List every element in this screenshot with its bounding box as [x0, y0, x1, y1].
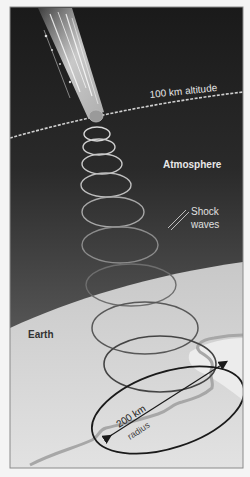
diagram-canvas: 100 km altitude Atmosphere Shock waves E…: [0, 0, 250, 477]
meteor-shockwave-diagram: 100 km altitude Atmosphere Shock waves E…: [0, 0, 250, 477]
atmosphere-label: Atmosphere: [163, 159, 222, 170]
shock-waves-label-line1: Shock: [191, 206, 220, 217]
shock-waves-label-line2: waves: [190, 219, 219, 230]
meteor-body-icon: [89, 110, 103, 122]
earth-label: Earth: [28, 329, 54, 340]
